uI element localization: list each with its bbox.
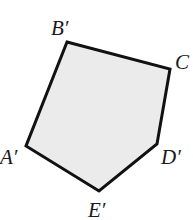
pentagon-diagram: B′ C D′ E′ A′ <box>0 0 193 220</box>
vertex-label-d-prime: D′ <box>160 145 181 169</box>
vertex-label-c: C <box>175 50 190 74</box>
vertex-label-b-prime: B′ <box>51 16 69 40</box>
pentagon-shape <box>26 42 170 191</box>
vertex-label-e-prime: E′ <box>87 198 106 220</box>
vertex-label-a-prime: A′ <box>0 145 18 169</box>
